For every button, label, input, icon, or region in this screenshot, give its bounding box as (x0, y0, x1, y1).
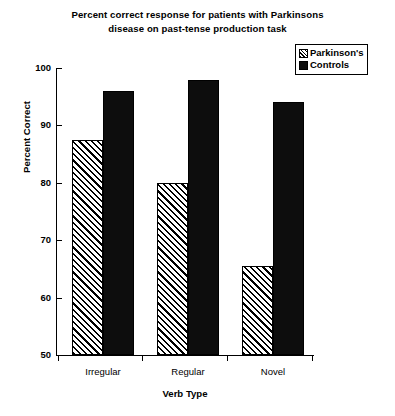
hatched-square-icon (299, 49, 308, 58)
chart-title: Percent correct response for patients wi… (0, 8, 395, 36)
bar-controls-regular (188, 80, 219, 356)
y-tick-label-90: 90 (40, 119, 51, 130)
x-tick-start (58, 356, 59, 361)
x-category-label-novel: Novel (261, 366, 285, 377)
y-axis-title: Percent Correct (21, 101, 32, 173)
x-axis-title: Verb Type (56, 388, 314, 399)
y-tick-label-80: 80 (40, 177, 51, 188)
legend-item-parkinsons: Parkinson's (299, 47, 363, 59)
legend-label-controls: Controls (310, 59, 349, 71)
y-tick-80: 80 (56, 183, 62, 184)
bar-parkinsons-regular (157, 183, 188, 355)
x-tick-sep-1 (142, 356, 143, 361)
chart-title-line-2: disease on past-tense production task (0, 22, 395, 36)
bar-controls-irregular (103, 91, 134, 355)
bar-controls-novel (273, 102, 304, 355)
bar-parkinsons-novel (242, 266, 273, 355)
y-axis-line (56, 68, 57, 356)
plot-area: 50 60 70 80 90 100 (56, 68, 313, 355)
x-category-label-regular: Regular (171, 366, 204, 377)
y-tick-label-50: 50 (40, 349, 51, 360)
y-tick-label-70: 70 (40, 234, 51, 245)
bar-parkinsons-irregular (72, 140, 103, 355)
x-axis-line (56, 355, 314, 356)
y-tick-label-60: 60 (40, 292, 51, 303)
x-tick-sep-2 (227, 356, 228, 361)
y-tick-60: 60 (56, 298, 62, 299)
y-tick-label-100: 100 (35, 62, 51, 73)
y-tick-70: 70 (56, 240, 62, 241)
chart-title-line-1: Percent correct response for patients wi… (71, 9, 323, 20)
legend-label-parkinsons: Parkinson's (310, 47, 363, 59)
x-tick-end (312, 356, 313, 361)
y-tick-100: 100 (56, 68, 62, 69)
x-category-label-irregular: Irregular (85, 366, 120, 377)
y-tick-90: 90 (56, 125, 62, 126)
bar-chart: Percent correct response for patients wi… (0, 0, 395, 416)
y-tick-50: 50 (56, 355, 62, 356)
